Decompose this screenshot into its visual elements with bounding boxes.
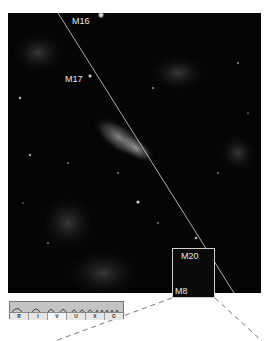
band-visible: V (48, 313, 67, 320)
band-xray: X (86, 313, 105, 320)
band-radio: R (10, 313, 29, 320)
band-ultraviolet: U (67, 313, 86, 320)
zoom-leader-lines (0, 0, 271, 341)
spectrum-bar: R I V U X G (9, 301, 124, 319)
band-gamma: G (105, 313, 123, 320)
band-infrared: I (29, 313, 48, 320)
wave-icon (10, 302, 123, 312)
